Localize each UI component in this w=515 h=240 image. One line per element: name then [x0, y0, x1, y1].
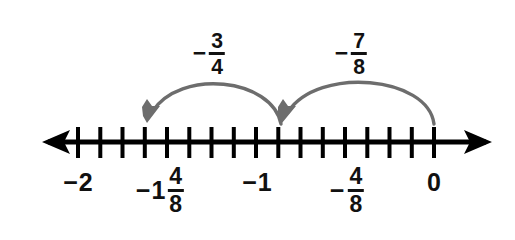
jump-arc-path — [152, 84, 281, 124]
fraction-numerator: 7 — [351, 30, 367, 52]
whole-number: 1 — [258, 170, 272, 195]
fraction-denominator: 8 — [351, 55, 367, 77]
number-line-figure: −34 −78 −2 −148 −1 −48 0 — [0, 0, 515, 240]
fraction: 48 — [167, 165, 184, 216]
fraction-denominator: 4 — [209, 55, 225, 77]
minus-sign: − — [193, 42, 206, 65]
whole-number: 1 — [151, 178, 165, 203]
fraction: 48 — [347, 165, 364, 216]
minus-sign: − — [242, 170, 257, 195]
minus-sign: − — [136, 178, 151, 203]
fraction-denominator: 8 — [347, 192, 364, 216]
fraction-denominator: 8 — [167, 192, 184, 216]
tick-label-0: 0 — [427, 170, 441, 195]
jump-label-neg-7-8: −78 — [335, 30, 367, 77]
minus-sign: − — [335, 42, 348, 65]
whole-number: 2 — [79, 170, 93, 195]
tick-label-neg-4-8: −48 — [330, 165, 364, 216]
whole-number: 0 — [427, 170, 441, 195]
number-line-canvas — [0, 0, 515, 240]
fraction-numerator: 3 — [209, 30, 225, 52]
jump-arc-path — [288, 82, 434, 124]
tick-label-neg-2: −2 — [63, 170, 93, 195]
minus-sign: − — [63, 170, 78, 195]
tick-label-neg-1-and-4-8: −148 — [136, 165, 184, 216]
fraction: 78 — [351, 30, 367, 77]
tick-label-neg-1: −1 — [242, 170, 272, 195]
fraction-numerator: 4 — [167, 165, 184, 189]
fraction-numerator: 4 — [347, 165, 364, 189]
jump-arc-neg-seven-eighths — [278, 82, 434, 124]
number-line-axis — [42, 130, 492, 154]
minus-sign: − — [330, 178, 345, 203]
jump-arc-neg-three-quarters — [142, 84, 281, 124]
fraction: 34 — [209, 30, 225, 77]
jump-label-neg-3-4: −34 — [193, 30, 225, 77]
jump-arrowhead-icon — [278, 99, 296, 123]
